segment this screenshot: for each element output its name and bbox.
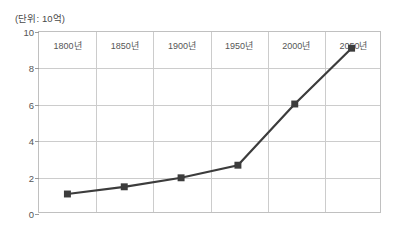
series-line-chart <box>39 32 380 212</box>
data-point-marker <box>348 45 355 52</box>
data-point-marker <box>178 174 185 181</box>
y-axis-tick-label: 10 <box>23 27 34 38</box>
unit-caption: (단위: 10억) <box>15 11 65 25</box>
y-axis-tick-label: 6 <box>29 99 34 110</box>
y-axis-tick-label: 4 <box>29 136 34 147</box>
y-axis-tick-label: 2 <box>29 172 34 183</box>
series-polyline <box>67 48 351 194</box>
data-point-marker <box>234 162 241 169</box>
chart-container: (단위: 10억) 0246810 1800년1850년1900년1950년20… <box>0 0 407 248</box>
data-point-marker <box>121 183 128 190</box>
plot-area: 0246810 1800년1850년1900년1950년2000년2050년 <box>38 31 381 213</box>
data-point-marker <box>64 191 71 198</box>
y-axis-tick-label: 0 <box>29 209 34 220</box>
y-axis-tick-mark <box>35 214 39 215</box>
y-axis-tick-label: 8 <box>29 63 34 74</box>
data-point-marker <box>291 101 298 108</box>
series-markers <box>64 45 355 198</box>
